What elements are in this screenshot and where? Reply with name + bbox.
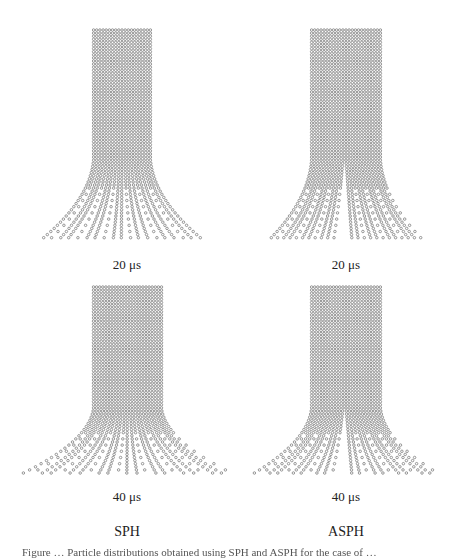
time-label-asph-40us: 40 μs (286, 489, 406, 505)
particle-plot-sph-20us (0, 0, 233, 255)
time-label-sph-40us: 40 μs (67, 489, 187, 505)
time-label-sph-20us: 20 μs (67, 257, 187, 273)
panel-sph-40us (0, 255, 233, 485)
panel-asph-40us (233, 255, 467, 485)
particle-plot-asph-40us (233, 255, 467, 485)
panel-sph-20us (0, 0, 233, 255)
method-label-sph: SPH (67, 524, 187, 540)
method-label-asph: ASPH (286, 524, 406, 540)
panel-asph-20us (233, 0, 467, 255)
particle-plot-asph-20us (233, 0, 467, 255)
time-label-asph-20us: 20 μs (286, 257, 406, 273)
figure-caption: Figure … Particle distributions obtained… (22, 546, 377, 558)
particle-plot-sph-40us (0, 255, 233, 485)
